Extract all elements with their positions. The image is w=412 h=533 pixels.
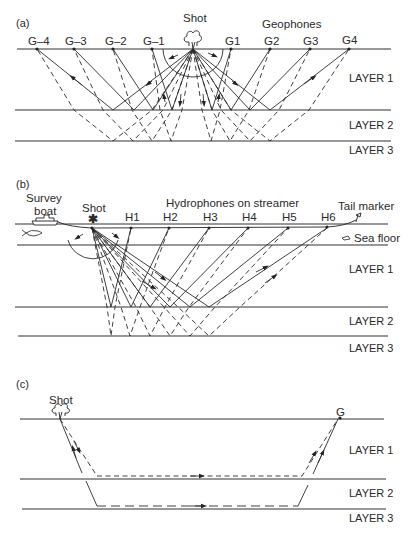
receiver-label: G2 xyxy=(264,35,279,47)
wavefront-arrow xyxy=(171,55,178,58)
tail-marker-label: Tail marker xyxy=(338,200,394,212)
panel-b: (b) Survey boat Shot Hydrophones on stre… xyxy=(15,178,400,354)
wavefront-arrow xyxy=(112,233,117,237)
hydrophone-label: H1 xyxy=(125,211,140,223)
reflected-rays-layer2 xyxy=(37,49,349,141)
seismic-survey-figure: (a) Shot Geophones G–4 G–3 G–2 G–1 G1 G2… xyxy=(0,0,412,533)
layer-label: LAYER 1 xyxy=(349,263,393,275)
layer-label: LAYER 2 xyxy=(349,315,393,327)
receiver-label: G–1 xyxy=(143,35,165,47)
reflected-rays-layer1 xyxy=(92,228,327,307)
geophones-label: Geophones xyxy=(262,18,322,30)
shot-label-c: Shot xyxy=(49,394,73,406)
layer-label: LAYER 2 xyxy=(349,119,393,131)
wavefront-arrow xyxy=(77,234,83,238)
hydrophones-label: Hydrophones on streamer xyxy=(166,197,299,209)
sea-floor-label: Sea floor xyxy=(354,232,400,244)
receiver-label: G4 xyxy=(342,34,358,46)
hydrophone-label: H6 xyxy=(321,211,336,223)
explosion-cloud-icon xyxy=(52,404,69,419)
hydrophone-label: H5 xyxy=(282,211,297,223)
panel-label-a: (a) xyxy=(16,17,29,29)
hydrophone-label: H2 xyxy=(163,211,178,223)
panel-label-c: (c) xyxy=(16,378,29,390)
receiver-label: G1 xyxy=(225,35,240,47)
head-wave-layer2 xyxy=(60,419,338,506)
sea-floor-marker-icon xyxy=(342,236,350,240)
layer-label: LAYER 1 xyxy=(349,72,393,84)
layer-label: LAYER 2 xyxy=(349,487,393,499)
fish-icon xyxy=(22,230,42,236)
shot-label-a: Shot xyxy=(183,12,207,24)
wavefront-arrow xyxy=(208,53,215,56)
hydrophone-label: H4 xyxy=(242,211,257,223)
layer-label: LAYER 3 xyxy=(349,512,393,524)
panel-label-b: (b) xyxy=(16,178,29,190)
panel-a: (a) Shot Geophones G–4 G–3 G–2 G–1 G1 G2… xyxy=(15,12,393,156)
explosion-cloud-icon xyxy=(184,31,201,49)
layer-label: LAYER 3 xyxy=(349,342,393,354)
receiver-label: G–4 xyxy=(28,35,50,47)
tail-buoy-icon xyxy=(356,213,361,222)
survey-boat-label-line1: Survey xyxy=(26,192,62,204)
hydrophone-label: H3 xyxy=(203,211,218,223)
geophone-marker-g xyxy=(338,416,341,419)
receiver-label: G–3 xyxy=(65,35,87,47)
layer-label: LAYER 3 xyxy=(349,144,393,156)
receiver-label: G3 xyxy=(303,35,318,47)
receiver-label: G–2 xyxy=(105,35,127,47)
layer-label: LAYER 1 xyxy=(349,444,393,456)
asterisk-shot-icon: ✱ xyxy=(88,212,98,226)
receiver-label-g: G xyxy=(336,406,345,418)
panel-c: (c) Shot G LAYER 1 LAYER 2 LAYER 3 xyxy=(16,378,393,524)
wavefront-arc xyxy=(163,49,223,77)
head-wave-layer1 xyxy=(60,419,338,476)
reflected-rays-layer1 xyxy=(37,49,349,110)
